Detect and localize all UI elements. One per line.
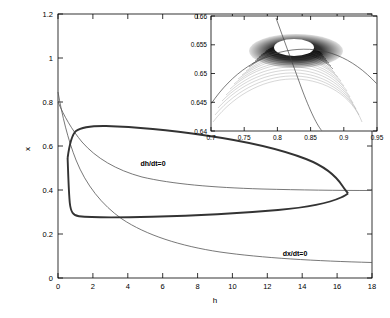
limit-cycle-lower: [68, 158, 348, 217]
x-tick-12: 12: [263, 282, 271, 291]
x-tick-2: 2: [91, 282, 95, 291]
dxdt-nullcline-label: dx/dt=0: [283, 250, 308, 257]
x-axis-title: h: [213, 296, 217, 305]
inset-y-tick-labels: 0.64 0.645 0.65 0.655 0.66: [191, 13, 208, 135]
x-tick-10: 10: [228, 282, 236, 291]
inset-y-tick-0p64: 0.64: [194, 128, 207, 135]
inset-x-tick-0p7: 0.7: [206, 134, 215, 141]
y-tick-1: 1: [49, 54, 53, 63]
x-axis-tick-labels: 0 2 4 6 8 10 12 14 16 18: [56, 282, 376, 291]
inset-y-tick-0p66: 0.66: [194, 13, 207, 20]
dhdt-nullcline-label: dh/dt=0: [140, 160, 165, 167]
inset-x-tick-0p75: 0.75: [238, 134, 251, 141]
y-tick-0p6: 0.6: [43, 142, 53, 151]
y-axis-tick-labels: 0 0.2 0.4 0.6 0.8 1 1.2: [43, 10, 53, 283]
inset-x-tick-0p8: 0.8: [273, 134, 282, 141]
x-tick-0: 0: [56, 282, 60, 291]
y-tick-0p2: 0.2: [43, 230, 53, 239]
x-tick-14: 14: [298, 282, 306, 291]
inset-x-tick-0p95: 0.95: [371, 134, 384, 141]
x-tick-6: 6: [161, 282, 165, 291]
x-tick-18: 18: [368, 282, 376, 291]
inset-y-tick-0p655: 0.655: [191, 41, 208, 48]
x-tick-4: 4: [126, 282, 130, 291]
y-tick-0: 0: [49, 274, 53, 283]
y-tick-0p4: 0.4: [43, 186, 53, 195]
inset-x-tick-0p9: 0.9: [339, 134, 348, 141]
figure-root: 0 0.2 0.4 0.6 0.8 1 1.2: [0, 0, 390, 318]
inset-plot: 0.7 0.75 0.8 0.85 0.9 0.95 0.64 0.645 0.…: [191, 13, 384, 141]
y-tick-0p8: 0.8: [43, 98, 53, 107]
inset-focus-core: [274, 39, 314, 56]
inset-y-tick-0p65: 0.65: [194, 70, 207, 77]
inset-x-tick-0p85: 0.85: [304, 134, 317, 141]
x-tick-8: 8: [196, 282, 200, 291]
phase-plane-plot: 0 0.2 0.4 0.6 0.8 1 1.2: [0, 0, 390, 318]
y-tick-1p2: 1.2: [43, 10, 53, 19]
inset-y-tick-0p645: 0.645: [191, 99, 208, 106]
y-axis-title: x: [23, 147, 32, 151]
x-tick-16: 16: [333, 282, 341, 291]
